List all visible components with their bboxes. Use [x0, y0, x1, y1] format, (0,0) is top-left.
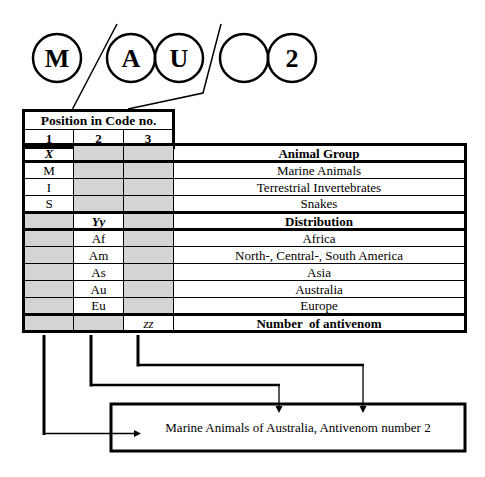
table-row: Eu Europe	[24, 298, 466, 315]
connector-position-3	[138, 335, 367, 413]
cell-position-1: I	[24, 179, 74, 196]
cell-position-1	[24, 281, 74, 298]
table-row: I Terrestrial Invertebrates	[24, 179, 466, 196]
section-heading: Number of antivenom	[174, 315, 466, 332]
cell-position-2: As	[74, 264, 124, 281]
section-heading: Animal Group	[174, 145, 466, 162]
table-row-animal-group-header: X Animal Group	[24, 145, 466, 162]
cell-position-3	[124, 213, 174, 230]
table-row-distribution-header: Yy Distribution	[24, 213, 466, 230]
cell-label: Terrestrial Invertebrates	[174, 179, 466, 196]
cell-position-3	[124, 196, 174, 213]
cell-label: Europe	[174, 298, 466, 315]
table-row: Au Australia	[24, 281, 466, 298]
code-circle-5: 2	[268, 34, 316, 82]
cell-position-3	[124, 162, 174, 179]
cell-label: Asia	[174, 264, 466, 281]
section-heading: Distribution	[174, 213, 466, 230]
code-circle-4	[220, 34, 268, 82]
cell-position-3	[124, 145, 174, 162]
cell-position-3	[124, 230, 174, 247]
position-header-title: Position in Code no.	[24, 111, 174, 130]
cell-position-3	[124, 281, 174, 298]
cell-position-2: Am	[74, 247, 124, 264]
cell-label: Snakes	[174, 196, 466, 213]
cell-position-2: Af	[74, 230, 124, 247]
cell-position-2	[74, 315, 124, 332]
cell-position-1	[24, 264, 74, 281]
table-row-antivenom-header: zz Number of antivenom	[24, 315, 466, 332]
cell-position-2: Au	[74, 281, 124, 298]
cell-label: Africa	[174, 230, 466, 247]
code-circle-1: M	[33, 34, 81, 82]
table-row: Af Africa	[24, 230, 466, 247]
cell-position-2: Yy	[74, 213, 124, 230]
cell-position-1: M	[24, 162, 74, 179]
cell-position-2	[74, 162, 124, 179]
cell-position-1: X	[24, 145, 74, 162]
cell-position-2	[74, 179, 124, 196]
code-letter-3: U	[170, 44, 189, 73]
code-letter-1: M	[45, 44, 70, 73]
cell-position-1: S	[24, 196, 74, 213]
cell-position-2	[74, 196, 124, 213]
code-circle-2: A	[107, 34, 155, 82]
cell-position-1	[24, 247, 74, 264]
cell-position-3	[124, 298, 174, 315]
cell-position-1	[24, 230, 74, 247]
table-row: Am North-, Central-, South America	[24, 247, 466, 264]
cell-label: Australia	[174, 281, 466, 298]
cell-position-1	[24, 298, 74, 315]
connector-position-2	[91, 335, 283, 413]
table-row: As Asia	[24, 264, 466, 281]
cell-position-3	[124, 264, 174, 281]
cell-label: Marine Animals	[174, 162, 466, 179]
cell-position-1	[24, 315, 74, 332]
table-row: S Snakes	[24, 196, 466, 213]
code-circle-3: U	[155, 34, 203, 82]
code-table: X Animal Group M Marine Animals I Terres…	[22, 143, 467, 333]
table-row: M Marine Animals	[24, 162, 466, 179]
cell-position-2	[74, 145, 124, 162]
cell-position-3	[124, 179, 174, 196]
code-letter-5: 2	[286, 44, 299, 73]
result-text: Marine Animals of Australia, Antivenom n…	[110, 403, 466, 452]
cell-position-2: Eu	[74, 298, 124, 315]
cell-label: North-, Central-, South America	[174, 247, 466, 264]
cell-position-1	[24, 213, 74, 230]
cell-position-3: zz	[124, 315, 174, 332]
code-letter-2: A	[122, 44, 141, 73]
cell-position-3	[124, 247, 174, 264]
